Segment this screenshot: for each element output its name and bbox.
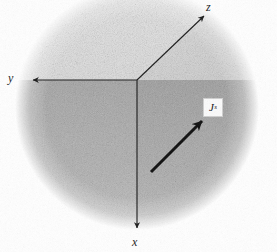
- x-axis-label: x: [132, 236, 137, 248]
- sphere-shading: [0, 0, 277, 252]
- figure-canvas: [0, 0, 277, 252]
- current-density-subscript: s: [214, 104, 217, 111]
- z-axis-label: z: [206, 1, 211, 13]
- current-density-label-box: Js: [203, 98, 223, 117]
- y-axis-label: y: [8, 72, 13, 84]
- halftone-texture-light: [0, 0, 277, 252]
- physics-figure: y z x Js: [0, 0, 277, 252]
- current-density-symbol: J: [209, 102, 214, 113]
